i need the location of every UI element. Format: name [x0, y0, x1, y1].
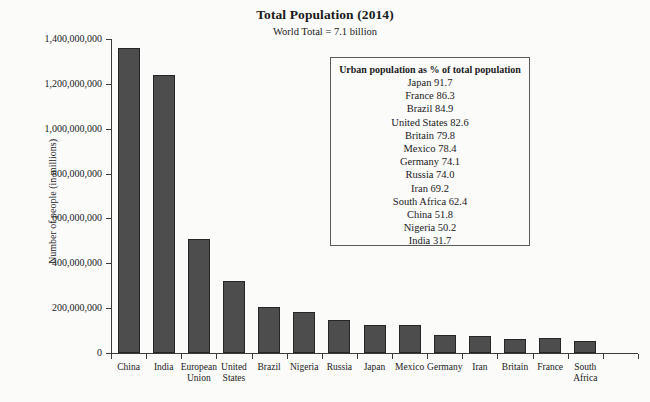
- x-axis-tick-label: South Africa: [564, 362, 607, 383]
- bar: [223, 281, 245, 353]
- legend-rows: Japan 91.7France 86.3Brazil 84.9United S…: [331, 76, 529, 248]
- bars-layer: ChinaIndiaEuropean UnionUnited StatesBra…: [0, 0, 650, 402]
- legend-row: Russia 74.0: [331, 168, 529, 181]
- x-axis-tick-mark: [111, 354, 112, 359]
- bar: [399, 325, 421, 353]
- bar: [328, 320, 350, 353]
- x-axis-tick-mark: [568, 354, 569, 359]
- legend-row: United States 82.6: [331, 116, 529, 129]
- bar: [574, 341, 596, 353]
- x-axis-tick-mark: [638, 354, 639, 359]
- x-axis-tick-mark: [533, 354, 534, 359]
- x-axis-tick-mark: [392, 354, 393, 359]
- legend-row: Britain 79.8: [331, 129, 529, 142]
- x-axis-tick-mark: [146, 354, 147, 359]
- x-axis-tick-mark: [287, 354, 288, 359]
- bar: [118, 48, 140, 353]
- legend-row: Brazil 84.9: [331, 102, 529, 115]
- legend-box: Urban population as % of total populatio…: [330, 57, 530, 246]
- bar: [258, 307, 280, 353]
- legend-row: France 86.3: [331, 89, 529, 102]
- x-axis-tick-mark: [603, 354, 604, 359]
- x-axis-tick-mark: [181, 354, 182, 359]
- bar: [153, 75, 175, 353]
- x-axis-tick-mark: [497, 354, 498, 359]
- bar: [434, 335, 456, 353]
- legend-row: Nigeria 50.2: [331, 221, 529, 234]
- legend-heading: Urban population as % of total populatio…: [331, 63, 529, 76]
- x-axis-tick-mark: [252, 354, 253, 359]
- bar: [364, 325, 386, 353]
- bar: [188, 239, 210, 353]
- bar: [504, 339, 526, 353]
- legend-row: Germany 74.1: [331, 155, 529, 168]
- legend-row: China 51.8: [331, 208, 529, 221]
- bar: [469, 336, 491, 353]
- x-axis-tick-mark: [216, 354, 217, 359]
- x-axis-tick-mark: [427, 354, 428, 359]
- bar: [293, 312, 315, 353]
- x-axis-tick-mark: [322, 354, 323, 359]
- legend-row: India 31.7: [331, 234, 529, 247]
- population-bar-chart-figure: Total Population (2014) World Total = 7.…: [0, 0, 650, 402]
- legend-row: Mexico 78.4: [331, 142, 529, 155]
- x-axis-tick-mark: [357, 354, 358, 359]
- legend-row: Iran 69.2: [331, 182, 529, 195]
- legend-row: Japan 91.7: [331, 76, 529, 89]
- x-axis-tick-mark: [462, 354, 463, 359]
- bar: [539, 338, 561, 353]
- legend-row: South Africa 62.4: [331, 195, 529, 208]
